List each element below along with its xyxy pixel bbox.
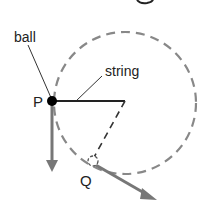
ball-p	[47, 96, 57, 106]
ball-leader-line	[28, 45, 52, 100]
velocity-arrow-q	[94, 164, 146, 194]
point-q-label: Q	[80, 173, 92, 188]
arrow-head-icon	[140, 188, 157, 200]
ball-q	[88, 156, 98, 166]
point-p-label: P	[33, 94, 43, 109]
arrow-head-icon	[46, 160, 58, 172]
ball-label: ball	[14, 30, 36, 44]
circular-path	[54, 32, 196, 174]
cropped-title-glyph	[137, 0, 153, 3]
string-dashed-line	[93, 101, 125, 159]
string-label: string	[105, 64, 139, 78]
string-leader-line	[76, 76, 102, 101]
